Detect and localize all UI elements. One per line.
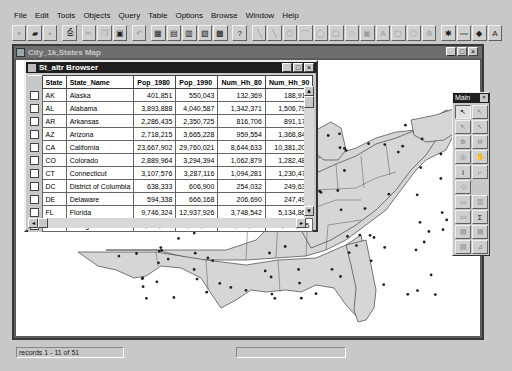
browser-close-button[interactable]: × xyxy=(304,63,314,72)
hotlink-tool[interactable]: ▧ xyxy=(455,240,471,254)
cell-state-name[interactable]: Alaska xyxy=(66,89,134,102)
menu-options[interactable]: Options xyxy=(171,10,207,22)
cell-state[interactable]: CA xyxy=(42,141,66,154)
label-tool[interactable]: ⌐ xyxy=(472,165,488,179)
cell-pop-1980[interactable]: 2,718,215 xyxy=(134,128,176,141)
cell-num-hh-80[interactable]: 132,369 xyxy=(218,89,265,102)
statistics-tool[interactable]: Σ xyxy=(472,210,488,224)
zoom-in-tool[interactable]: ⊕ xyxy=(455,135,471,149)
cell-state[interactable]: AZ xyxy=(42,128,66,141)
symbol-style-button[interactable]: ✱ xyxy=(441,25,455,41)
cell-num-hh-80[interactable]: 1,062,879 xyxy=(218,154,265,167)
open-folder-button[interactable]: ▰ xyxy=(27,25,41,41)
column-header-pop-1990[interactable]: Pop_1990 xyxy=(176,76,218,89)
table-row[interactable]: ARArkansas2,286,4352,350,725816,706891,1… xyxy=(28,115,313,128)
reshape-button[interactable]: ⬡ xyxy=(407,25,421,41)
new-grapher-button[interactable]: ▥ xyxy=(182,25,196,41)
cell-state[interactable]: CO xyxy=(42,154,66,167)
cell-state[interactable]: CT xyxy=(42,167,66,180)
cell-pop-1980[interactable]: 3,107,576 xyxy=(134,167,176,180)
cell-pop-1980[interactable]: 23,667,902 xyxy=(134,141,176,154)
help-pointer-button[interactable]: ? xyxy=(232,25,246,41)
row-select-checkbox[interactable] xyxy=(30,182,39,191)
table-row[interactable]: COColorado2,889,9643,294,3941,062,8791,2… xyxy=(28,154,313,167)
layer-control-tool[interactable]: ▥ xyxy=(472,195,488,209)
radius-select-tool[interactable]: ↖ xyxy=(455,120,471,134)
cell-pop-1990[interactable]: 29,760,021 xyxy=(176,141,218,154)
table-row[interactable]: AKAlaska401,851550,043132,369188,915 xyxy=(28,89,313,102)
new-redistrict-button[interactable]: ▩ xyxy=(213,25,227,41)
cell-state[interactable]: AK xyxy=(42,89,66,102)
cell-pop-1990[interactable]: 550,043 xyxy=(176,89,218,102)
rectangle-button[interactable]: □ xyxy=(345,25,359,41)
polyline-button[interactable]: ╲ xyxy=(252,25,266,41)
clip-tool[interactable]: ⊿ xyxy=(472,240,488,254)
menu-file[interactable]: File xyxy=(10,10,31,22)
arc-button[interactable]: ⌒ xyxy=(298,25,312,41)
horizontal-scrollbar[interactable]: ◂ ▸ xyxy=(28,218,306,228)
row-select-checkbox[interactable] xyxy=(30,169,39,178)
cell-num-hh-80[interactable]: 816,706 xyxy=(218,115,265,128)
cell-state[interactable]: AL xyxy=(42,102,66,115)
cell-state[interactable]: DE xyxy=(42,193,66,206)
menu-window[interactable]: Window xyxy=(242,10,278,22)
table-row[interactable]: ALAlabama3,893,8884,040,5871,342,3711,50… xyxy=(28,102,313,115)
browser-titlebar[interactable]: St_altr Browser xyxy=(26,62,316,73)
text-style-button[interactable]: A xyxy=(488,25,502,41)
browser-minimize-button[interactable]: _ xyxy=(282,63,292,72)
cell-state-name[interactable]: Arkansas xyxy=(66,115,134,128)
scroll-up-arrow[interactable]: ▲ xyxy=(304,86,314,96)
scroll-right-arrow[interactable]: ▸ xyxy=(296,218,306,228)
rounded-rect-button[interactable]: ▢ xyxy=(329,25,343,41)
cell-pop-1990[interactable]: 4,040,587 xyxy=(176,102,218,115)
table-row[interactable]: CACalifornia23,667,90229,760,0218,644,63… xyxy=(28,141,313,154)
undo-button[interactable]: ↶ xyxy=(132,25,146,41)
row-select-checkbox[interactable] xyxy=(30,195,39,204)
horizontal-scroll-thumb[interactable] xyxy=(38,218,48,228)
cell-pop-1990[interactable]: 3,665,228 xyxy=(176,128,218,141)
row-select-checkbox[interactable] xyxy=(30,104,39,113)
save-button[interactable]: ▪ xyxy=(43,25,57,41)
cell-state-name[interactable]: Colorado xyxy=(66,154,134,167)
cell-pop-1980[interactable]: 594,338 xyxy=(134,193,176,206)
menu-edit[interactable]: Edit xyxy=(31,10,53,22)
row-select-checkbox[interactable] xyxy=(30,91,39,100)
cell-state[interactable]: AR xyxy=(42,115,66,128)
vertical-scrollbar[interactable]: ▲ ▼ xyxy=(304,86,314,218)
cell-pop-1980[interactable]: 3,893,888 xyxy=(134,102,176,115)
cell-pop-1990[interactable]: 2,350,725 xyxy=(176,115,218,128)
new-mapper-button[interactable]: ▤ xyxy=(167,25,181,41)
cell-state[interactable]: FL xyxy=(42,206,66,219)
column-header-state-name[interactable]: State_Name xyxy=(66,76,134,89)
cell-pop-1990[interactable]: 3,294,394 xyxy=(176,154,218,167)
scroll-left-arrow[interactable]: ◂ xyxy=(28,218,38,228)
cell-num-hh-80[interactable]: 1,342,371 xyxy=(218,102,265,115)
show-legend-tool[interactable]: ▭ xyxy=(455,210,471,224)
menu-table[interactable]: Table xyxy=(144,10,171,22)
cell-num-hh-80[interactable]: 1,094,281 xyxy=(218,167,265,180)
cell-state-name[interactable]: Delaware xyxy=(66,193,134,206)
line-style-button[interactable]: 〰 xyxy=(457,25,471,41)
menu-query[interactable]: Query xyxy=(115,10,145,22)
ruler-tool[interactable]: ▭ xyxy=(455,195,471,209)
palette-close-button[interactable]: × xyxy=(480,94,488,102)
ellipse-button[interactable]: ◯ xyxy=(314,25,328,41)
zoom-out-tool[interactable]: ⊖ xyxy=(472,135,488,149)
frame-button[interactable]: ▣ xyxy=(360,25,374,41)
menu-tools[interactable]: Tools xyxy=(53,10,80,22)
print-button[interactable]: ⎙ xyxy=(62,25,76,41)
map-maximize-button[interactable]: □ xyxy=(457,47,467,56)
symbol-button[interactable]: ▢ xyxy=(391,25,405,41)
table-row[interactable]: CTConnecticut3,107,5763,287,1161,094,281… xyxy=(28,167,313,180)
cell-num-hh-80[interactable]: 959,554 xyxy=(218,128,265,141)
map-window-titlebar[interactable]: City_1k,States Map xyxy=(14,46,482,58)
cell-state-name[interactable]: Arizona xyxy=(66,128,134,141)
cell-state-name[interactable]: Connecticut xyxy=(66,167,134,180)
row-select-checkbox[interactable] xyxy=(30,143,39,152)
copy-button[interactable]: ❐ xyxy=(97,25,111,41)
row-select-checkbox[interactable] xyxy=(30,130,39,139)
add-node-button[interactable]: ⊕ xyxy=(422,25,436,41)
cell-pop-1980[interactable]: 401,851 xyxy=(134,89,176,102)
cell-state-name[interactable]: California xyxy=(66,141,134,154)
table-row[interactable]: FLFlorida9,746,32412,937,9263,748,5425,1… xyxy=(28,206,313,219)
